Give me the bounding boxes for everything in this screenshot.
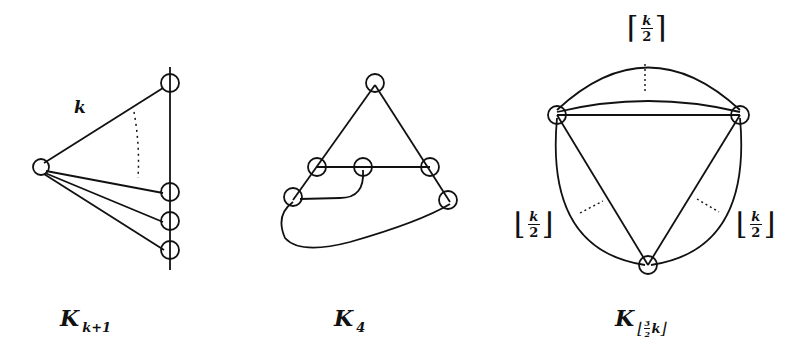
right-floor-label: ⌊ k2 ⌋	[736, 209, 775, 239]
caption-three-halves-k: K⌊32k⌋	[615, 305, 667, 339]
figure-k-plus-1	[33, 67, 179, 270]
vertex	[284, 188, 302, 206]
caption-subscript: ⌊32k⌋	[637, 318, 667, 339]
edge	[46, 171, 163, 193]
floor-close: ⌋	[764, 209, 776, 239]
diagram-canvas	[0, 0, 797, 356]
edge	[45, 173, 163, 222]
curved-edge	[557, 68, 740, 111]
fraction: k2	[750, 210, 762, 239]
floor-open: ⌊	[514, 209, 526, 239]
denominator: 2	[529, 226, 538, 239]
edge	[44, 88, 163, 163]
edge-count-label: k	[74, 97, 86, 117]
curved-edge	[281, 202, 450, 248]
caption-base: K	[334, 305, 353, 331]
numerator: k	[751, 210, 760, 223]
numerator: k	[529, 210, 538, 223]
left-floor-label: ⌊ k2 ⌋	[514, 209, 553, 239]
edge	[44, 174, 164, 250]
floor-open: ⌊	[736, 209, 748, 239]
curved-edge	[556, 118, 645, 265]
fraction: k2	[641, 14, 653, 43]
caption-base: K	[615, 305, 634, 331]
dotted-arc	[134, 112, 139, 178]
caption-subscript: k+1	[82, 320, 111, 335]
denominator: 2	[645, 329, 651, 339]
denominator: 2	[751, 226, 760, 239]
ceil-close: ⌉	[655, 13, 667, 43]
dotted-line	[580, 201, 603, 213]
denominator: 2	[642, 30, 651, 43]
ceil-open: ⌈	[627, 13, 639, 43]
curved-edge	[651, 118, 741, 265]
caption-k-plus-1: Kk+1	[60, 305, 111, 335]
numerator: 3	[645, 318, 651, 328]
edge	[375, 85, 450, 202]
edge	[648, 115, 740, 265]
vertex	[33, 159, 49, 175]
caption-subscript: 4	[356, 320, 365, 335]
caption-base: K	[60, 305, 79, 331]
numerator: k	[642, 14, 651, 27]
figure-k4	[281, 74, 457, 248]
figure-three-halves-k	[548, 64, 749, 274]
vertex	[366, 74, 384, 92]
dotted-line	[697, 199, 719, 212]
curved-edge	[557, 101, 740, 112]
caption-k4: K4	[334, 305, 365, 335]
fraction: k2	[528, 210, 540, 239]
top-ceil-label: ⌈ k2 ⌉	[627, 13, 666, 43]
edge	[557, 115, 648, 265]
floor-close: ⌋	[542, 209, 554, 239]
curved-edge	[300, 170, 363, 199]
